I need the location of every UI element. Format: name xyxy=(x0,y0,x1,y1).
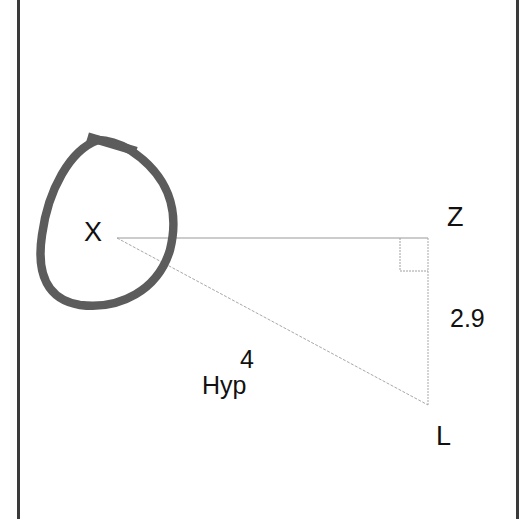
right-angle-marker-icon xyxy=(400,238,428,271)
side-value-hypotenuse: 4 xyxy=(240,347,254,372)
vertex-label-l: L xyxy=(436,423,451,450)
highlight-loop-icon xyxy=(41,140,174,306)
side-value-opposite: 2.9 xyxy=(450,306,485,331)
vertex-label-x: X xyxy=(84,219,102,246)
highlight-loop-tail xyxy=(92,138,132,150)
vertex-label-z: Z xyxy=(447,204,464,231)
side-name-hypotenuse: Hyp xyxy=(202,373,246,398)
